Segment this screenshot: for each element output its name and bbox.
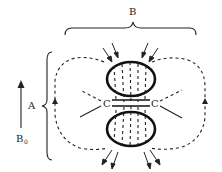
upper-interior-field-lines — [114, 62, 146, 104]
field-line-left-outer — [55, 58, 108, 150]
field-arrow-left — [52, 98, 58, 104]
incoming-arrows-top — [103, 43, 158, 62]
field-arrow-right — [202, 98, 208, 104]
field-arrow-head — [18, 80, 25, 88]
height-brace — [42, 52, 52, 160]
label-b0: B — [16, 133, 23, 144]
cusp-right: C — [151, 98, 159, 109]
label-b0-subscript: 0 — [24, 138, 28, 145]
width-brace — [65, 22, 196, 35]
outgoing-arrows-bottom — [102, 150, 160, 169]
cusp-right-solid — [160, 106, 182, 118]
cusp-left-solid — [80, 106, 101, 117]
label-b: B — [129, 6, 136, 17]
cusp-left-dashed — [82, 91, 101, 101]
label-a: A — [27, 100, 36, 111]
cusp-right-dashed — [160, 90, 182, 101]
cusp-left: C — [103, 98, 111, 109]
field-diagram: B A B 0 — [0, 0, 222, 172]
